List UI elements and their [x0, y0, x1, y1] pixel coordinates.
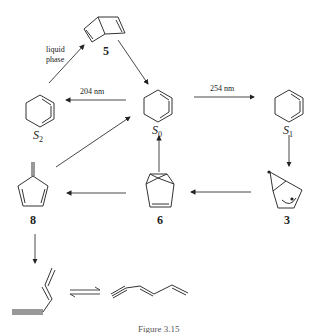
label-3: 3 [284, 214, 290, 226]
benzene-s1-structure [275, 90, 303, 122]
equilibrium-arrows [70, 287, 100, 297]
wavelength-204nm: 204 nm [80, 88, 104, 96]
cis-hexadienyne-structure [12, 268, 55, 314]
label-5: 5 [103, 45, 109, 57]
trans-hexadienyne-structure [111, 285, 188, 298]
figure-caption: Figure 3.15 [138, 325, 180, 333]
dewar-benzene-structure [84, 17, 125, 42]
label-s2: S2 [33, 129, 43, 144]
wavelength-254nm: 254 nm [210, 85, 234, 93]
benzvalene-structure [146, 174, 174, 207]
benzene-s2-structure [26, 95, 54, 127]
condition-phase: phase [46, 56, 64, 64]
reaction-diagram: 5 liquid phase 204 nm 254 nm S2 S0 S1 3 … [0, 0, 318, 333]
arrow-5-to-s0 [118, 40, 148, 84]
label-6: 6 [157, 214, 163, 226]
arrow-8-to-s0 [56, 117, 130, 167]
fulvene-structure [18, 162, 48, 206]
benzene-s0-structure [144, 90, 172, 122]
label-s0: S0 [152, 124, 162, 139]
label-s1: S1 [283, 124, 293, 139]
prefulvene-biradical-structure [270, 172, 302, 208]
label-8: 8 [30, 214, 36, 226]
condition-liquid: liquid [46, 46, 65, 54]
